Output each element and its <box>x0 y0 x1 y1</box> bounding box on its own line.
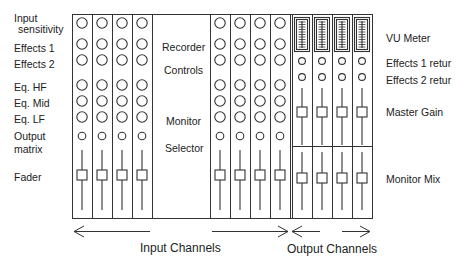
output-channels-label: Output Channels <box>287 244 377 255</box>
center-label: Selector <box>165 143 204 154</box>
center-label: Recorder <box>162 42 205 53</box>
right-label: Master Gain <box>386 107 443 118</box>
left-label: Eq. HF <box>14 82 47 93</box>
center-label: Monitor <box>166 116 201 127</box>
left-label: Output <box>14 131 46 142</box>
left-label: Effects 2 <box>14 59 55 70</box>
left-label: Fader <box>14 172 41 183</box>
left-label: sensitivity <box>18 24 64 35</box>
right-label: Effects 1 retur <box>386 58 451 69</box>
left-label: Eq. Mid <box>14 98 50 109</box>
left-label: matrix <box>14 144 43 155</box>
right-label: Monitor Mix <box>386 174 440 185</box>
right-label: Effects 2 retur <box>386 75 451 86</box>
input-channels-label: Input Channels <box>140 243 221 254</box>
right-label: VU Meter <box>386 33 430 44</box>
left-label: Effects 1 <box>14 43 55 54</box>
output-channels-arrow <box>292 226 370 237</box>
center-label: Controls <box>164 65 203 76</box>
input-channels-arrow <box>74 226 288 237</box>
left-label: Eq. LF <box>14 114 45 125</box>
